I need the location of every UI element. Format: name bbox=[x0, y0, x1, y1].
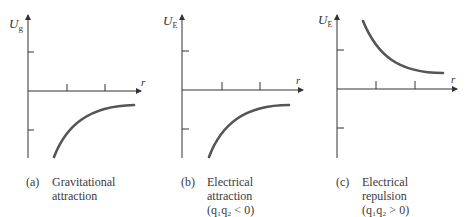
caption-tag: (a) bbox=[26, 175, 39, 189]
x-axis-label: r bbox=[141, 76, 146, 88]
caption-tag: (c) bbox=[336, 175, 349, 189]
potential-curve bbox=[54, 105, 134, 157]
x-axis-label: r bbox=[451, 73, 456, 85]
caption-line: attraction bbox=[207, 189, 254, 203]
potential-curve bbox=[209, 105, 289, 157]
panel-a-gravitational: Ug r bbox=[9, 15, 146, 158]
caption-tag: (b) bbox=[181, 175, 195, 189]
caption-line: (q₁q₂ < 0) bbox=[207, 203, 254, 217]
caption-line: (q₁q₂ > 0) bbox=[362, 203, 409, 217]
x-axis-label: r bbox=[296, 74, 301, 86]
panel-b-electrical-attraction: UE r bbox=[163, 13, 303, 158]
caption-line: Gravitational bbox=[52, 175, 115, 189]
y-axis-label: Ug bbox=[9, 16, 23, 33]
caption-line: Electrical bbox=[207, 175, 254, 189]
caption-line: attraction bbox=[52, 189, 115, 203]
y-axis-label: UE bbox=[318, 12, 332, 29]
y-axis-label: UE bbox=[163, 13, 177, 30]
caption-line: repulsion bbox=[362, 189, 409, 203]
potential-curve bbox=[363, 21, 443, 73]
caption-line: Electrical bbox=[362, 175, 409, 189]
panel-c-electrical-repulsion: UE r bbox=[318, 12, 457, 158]
